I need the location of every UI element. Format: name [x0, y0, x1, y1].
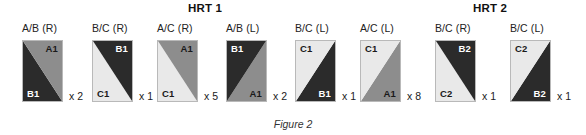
- hrt-unit-label: A/B (L): [226, 22, 259, 34]
- hrt-unit-label: B/C (L): [510, 22, 544, 34]
- hrt-cutting-diagram: HRT 1HRT 2 A/B (R)A1B1x 2B/C (R)B1C1x 1A…: [0, 0, 586, 135]
- hrt-unit-label: A/B (R): [22, 22, 57, 34]
- hrt-block: B1A1: [226, 40, 267, 102]
- hrt-block: C1B1: [295, 40, 336, 102]
- hrt-unit-quantity: x 1: [342, 90, 356, 102]
- figure-caption: Figure 2: [274, 118, 313, 130]
- hrt-block: C1A1: [360, 40, 401, 102]
- hrt-unit-quantity: x 1: [139, 90, 153, 102]
- group-heading: HRT 2: [473, 2, 507, 14]
- hrt-unit-label: A/C (R): [157, 22, 193, 34]
- hrt-unit-quantity: x 2: [273, 90, 287, 102]
- hrt-unit-quantity: x 1: [557, 90, 571, 102]
- hrt-unit-quantity: x 8: [407, 90, 421, 102]
- hrt-unit-label: B/C (R): [435, 22, 471, 34]
- hrt-block: C2B2: [510, 40, 551, 102]
- hrt-unit-quantity: x 5: [204, 90, 218, 102]
- hrt-unit-quantity: x 1: [482, 90, 496, 102]
- hrt-block: B1C1: [92, 40, 133, 102]
- hrt-unit-label: B/C (R): [92, 22, 128, 34]
- hrt-block: B2C2: [435, 40, 476, 102]
- hrt-unit-label: A/C (L): [360, 22, 394, 34]
- group-heading: HRT 1: [188, 2, 222, 14]
- hrt-unit-label: B/C (L): [295, 22, 329, 34]
- hrt-unit-quantity: x 2: [69, 90, 83, 102]
- hrt-block: A1B1: [22, 40, 63, 102]
- hrt-block: A1C1: [157, 40, 198, 102]
